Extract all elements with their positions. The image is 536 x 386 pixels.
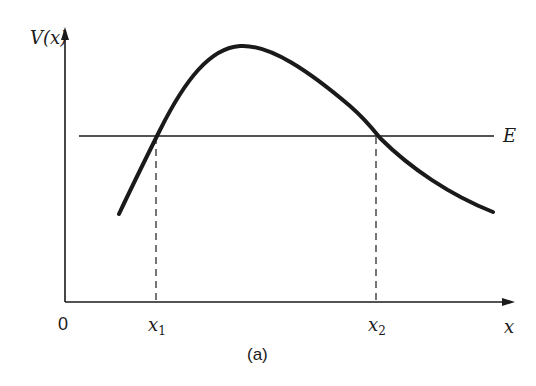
figure-caption: (a) xyxy=(247,345,268,364)
origin-label: 0 xyxy=(58,314,68,334)
x-axis-arrow-icon xyxy=(502,298,515,306)
y-axis-label: V(x) xyxy=(30,27,67,48)
x2-label: x2 xyxy=(368,314,386,338)
y-axis xyxy=(61,27,69,302)
x-axis-label: x xyxy=(504,316,514,337)
x1-label: x1 xyxy=(148,314,166,338)
potential-energy-diagram: V(x) E 0 x x1 x2 (a) xyxy=(0,0,536,386)
x-axis xyxy=(65,298,515,306)
potential-curve xyxy=(119,46,493,214)
energy-label: E xyxy=(502,125,516,146)
